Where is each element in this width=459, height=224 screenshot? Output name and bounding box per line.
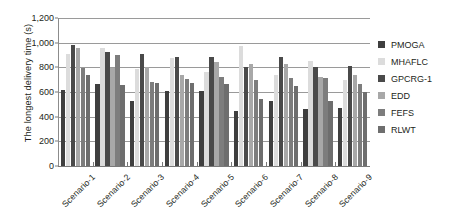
legend-item: MHAFLC xyxy=(378,53,459,70)
legend-item: PMOGA xyxy=(378,36,459,53)
x-axis-tick-label: Scenario-1 xyxy=(60,172,97,209)
y-axis-tick-label: 800 xyxy=(39,62,54,72)
x-axis-tick-label: Scenario-5 xyxy=(198,172,235,209)
x-axis-tick-label: Scenario-6 xyxy=(233,172,270,209)
x-axis-tick-label: Scenario-3 xyxy=(129,172,166,209)
legend-swatch-icon xyxy=(378,75,385,82)
plot-area: 02004006008001,0001,200 xyxy=(58,18,370,166)
y-axis-tick-label: 0 xyxy=(49,161,54,171)
legend-label: PMOGA xyxy=(391,40,425,50)
y-axis-tick-label: 1,000 xyxy=(31,38,54,48)
legend-item: EDD xyxy=(378,87,459,104)
y-axis-title: The longest delivery time (s) xyxy=(23,8,33,158)
legend-item: RLWT xyxy=(378,121,459,138)
x-axis-tick-label: Scenario-7 xyxy=(268,172,305,209)
x-axis-tick-label: Scenario-2 xyxy=(94,172,131,209)
x-axis-tick-label: Scenario-4 xyxy=(164,172,201,209)
legend-item: FEFS xyxy=(378,104,459,121)
legend-swatch-icon xyxy=(378,41,385,48)
legend-label: GPCRG-1 xyxy=(391,74,432,84)
legend-item: GPCRG-1 xyxy=(378,70,459,87)
legend-label: MHAFLC xyxy=(391,57,428,67)
y-axis-tick-label: 1,200 xyxy=(31,13,54,23)
chart-legend: PMOGAMHAFLCGPCRG-1EDDFEFSRLWT xyxy=(378,36,459,138)
legend-swatch-icon xyxy=(378,58,385,65)
legend-swatch-icon xyxy=(378,109,385,116)
bar-chart: The longest delivery time (s) 0200400600… xyxy=(0,0,459,224)
y-axis-tick-label: 200 xyxy=(39,136,54,146)
x-axis-tick-label: Scenario-9 xyxy=(337,172,374,209)
y-axis-tick-label: 400 xyxy=(39,112,54,122)
x-axis-tick-label: Scenario-8 xyxy=(302,172,339,209)
legend-swatch-icon xyxy=(378,126,385,133)
legend-label: FEFS xyxy=(391,108,414,118)
legend-label: EDD xyxy=(391,91,410,101)
plot-frame xyxy=(58,18,370,166)
legend-swatch-icon xyxy=(378,92,385,99)
x-axis-labels: Scenario-1Scenario-2Scenario-3Scenario-4… xyxy=(58,166,370,224)
legend-label: RLWT xyxy=(391,125,416,135)
y-axis-tick-label: 600 xyxy=(39,87,54,97)
